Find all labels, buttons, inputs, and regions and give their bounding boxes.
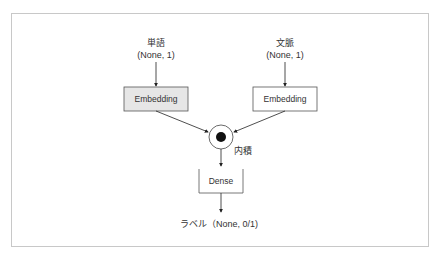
- word-to-merge-arrow: [156, 111, 208, 132]
- dot-product-label: 内積: [234, 145, 252, 156]
- context-embedding-label: Embedding: [263, 94, 306, 104]
- word-input-name: 単語: [147, 37, 165, 48]
- dot-product-icon: [216, 132, 226, 142]
- word-input-shape: (None, 1): [137, 50, 175, 60]
- context-input-name: 文脈: [276, 37, 294, 48]
- output-label: ラベル（None, 0/1): [180, 219, 258, 229]
- context-to-merge-arrow: [234, 111, 285, 132]
- dense-label: Dense: [209, 176, 234, 186]
- model-diagram: 単語 (None, 1) Embedding 文脈 (None, 1) Embe…: [0, 0, 441, 258]
- context-input-shape: (None, 1): [266, 50, 304, 60]
- word-embedding-label: Embedding: [134, 94, 177, 104]
